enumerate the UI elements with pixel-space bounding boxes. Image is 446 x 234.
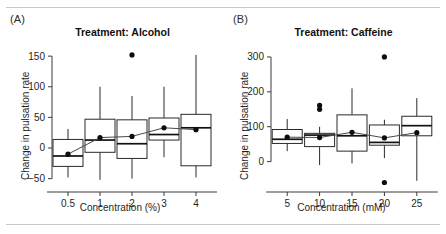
figure-canvas: (A) Treatment: Alcohol Change in pulsati…	[0, 0, 446, 234]
panel-a: (A) Treatment: Alcohol Change in pulsati…	[0, 0, 223, 234]
y-tick-label: 150	[28, 51, 45, 62]
x-tick-label: 10	[314, 198, 326, 209]
panel-b-plot: 3002001000510152025	[223, 0, 446, 234]
mean-point	[414, 130, 419, 135]
y-tick-label: 0	[258, 156, 264, 167]
mean-point	[161, 125, 166, 130]
y-tick-label: 0	[39, 142, 45, 153]
x-tick-label: 15	[346, 198, 358, 209]
x-tick-label: 1	[97, 198, 103, 209]
outlier-point	[129, 52, 134, 57]
outlier-point	[382, 180, 387, 185]
mean-point	[382, 135, 387, 140]
outlier-point	[382, 54, 387, 59]
mean-point	[129, 134, 134, 139]
y-tick-label: 100	[247, 121, 264, 132]
mean-point	[349, 130, 354, 135]
panel-b: (B) Treatment: Caffeine Change in pulsat…	[223, 0, 446, 234]
panel-a-plot: 150100500−500.51234	[0, 0, 223, 234]
y-tick-label: 50	[34, 112, 46, 123]
x-tick-label: 5	[284, 198, 290, 209]
y-tick-label: −50	[28, 173, 45, 184]
outlier-point	[317, 103, 322, 108]
y-tick-label: 100	[28, 81, 45, 92]
x-tick-label: 2	[129, 198, 135, 209]
mean-point	[65, 152, 70, 157]
x-tick-label: 20	[379, 198, 391, 209]
mean-point	[317, 135, 322, 140]
x-tick-label: 0.5	[61, 198, 75, 209]
mean-point	[193, 127, 198, 132]
x-tick-label: 25	[411, 198, 423, 209]
mean-point	[285, 135, 290, 140]
box	[181, 114, 211, 165]
x-tick-label: 3	[161, 198, 167, 209]
y-tick-label: 300	[247, 51, 264, 62]
mean-point	[97, 135, 102, 140]
box	[117, 120, 147, 159]
y-tick-label: 200	[247, 86, 264, 97]
x-tick-label: 4	[193, 198, 199, 209]
